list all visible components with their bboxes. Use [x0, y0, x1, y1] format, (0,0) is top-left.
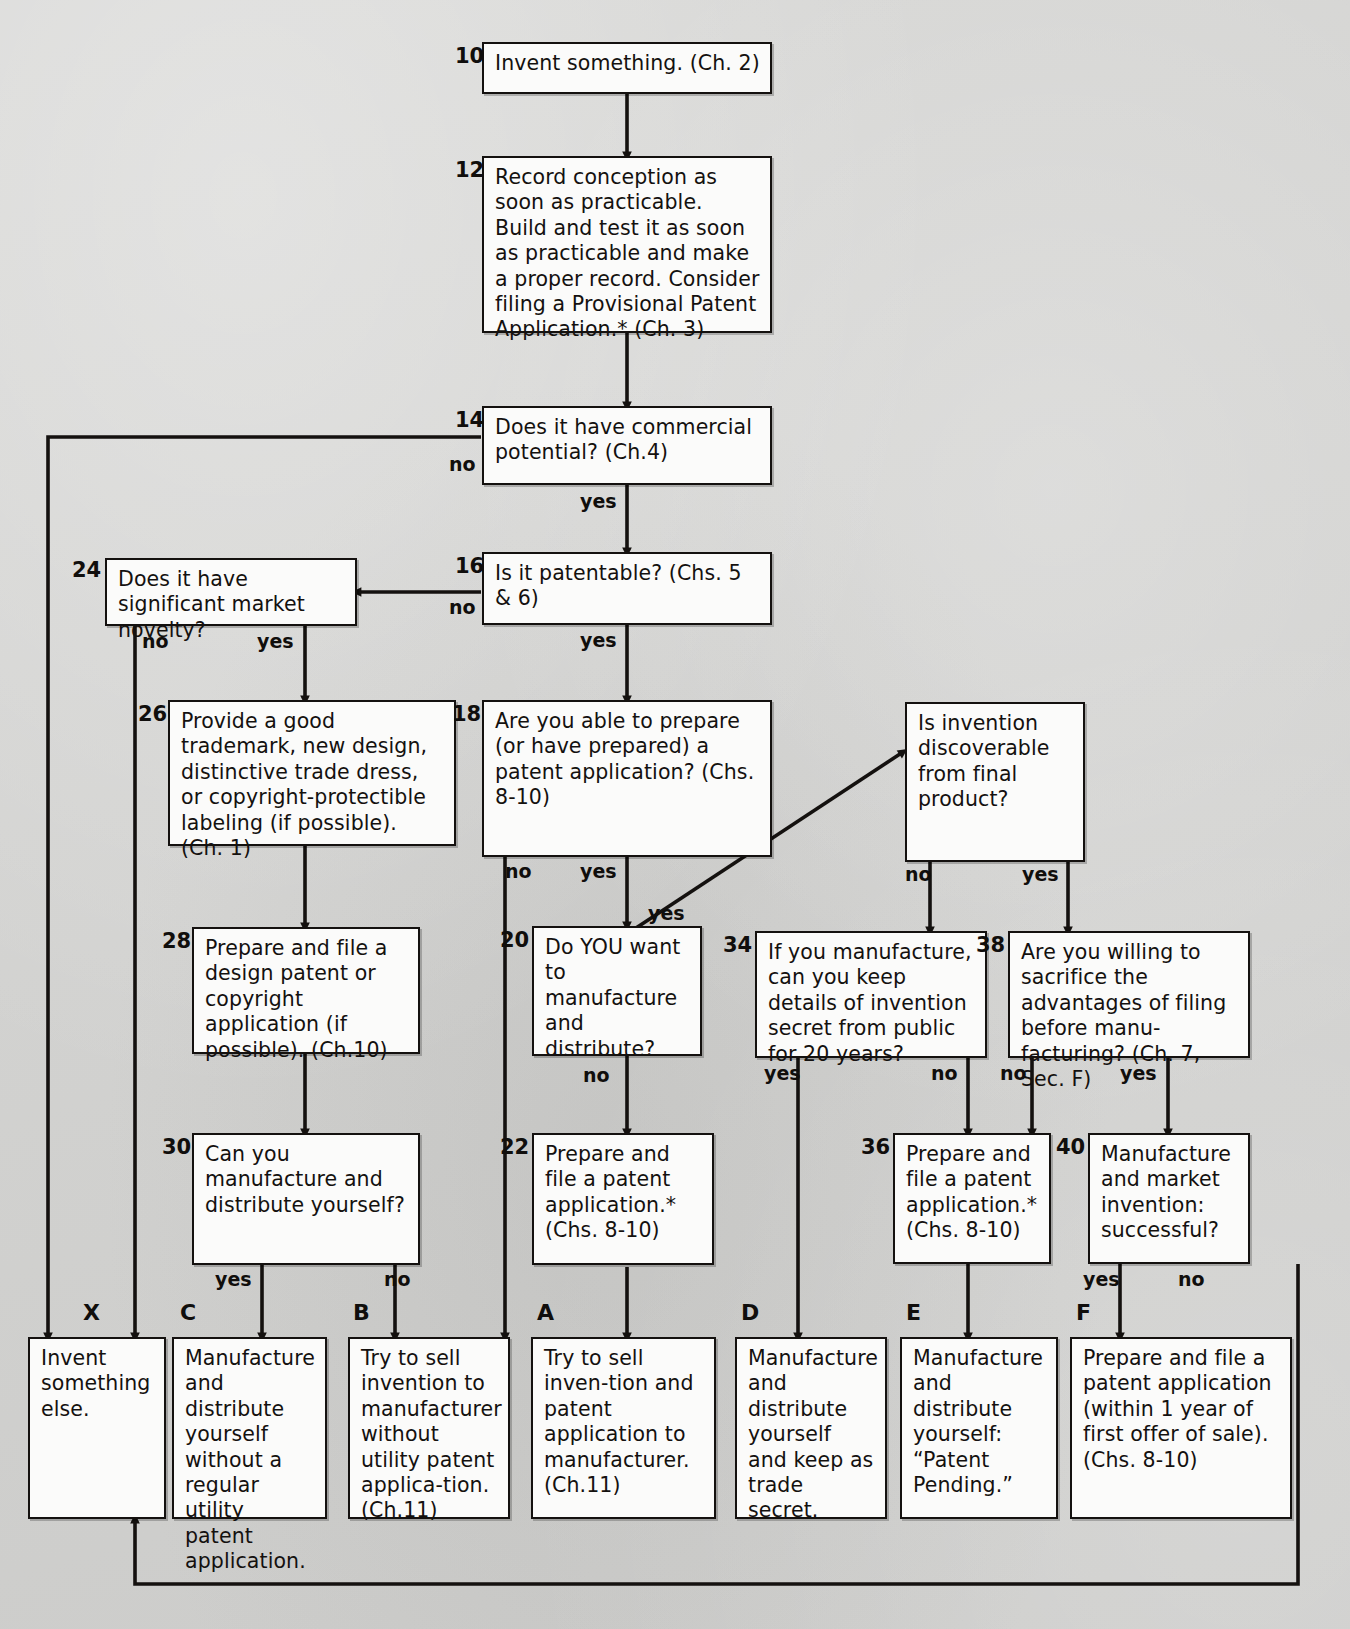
terminal-D: Manufacture and distribute yourself and …: [735, 1337, 887, 1519]
edge-label-30-yes: yes: [215, 1268, 252, 1290]
edge-label-38-yes: yes: [1120, 1062, 1157, 1084]
terminal-X-key: X: [83, 1300, 100, 1325]
edge-label-18-yes-secret: yes: [648, 902, 685, 924]
terminal-A: Try to sell inven-tion and patent applic…: [531, 1337, 716, 1519]
edge-label-16-no: no: [449, 596, 476, 618]
edge-label-discoverable-yes: yes: [1022, 863, 1059, 885]
node-24: Does it have significant market novelty?: [105, 558, 357, 626]
edge-label-34-yes: yes: [764, 1062, 801, 1084]
node-20-number: 20: [500, 928, 529, 952]
node-14-text: Does it have commercial potential? (Ch.4…: [495, 415, 761, 466]
node-34-number: 34: [723, 933, 752, 957]
edge-label-18-yes: yes: [580, 860, 617, 882]
terminal-C: Manufacture and distribute yourself with…: [172, 1337, 327, 1519]
node-30-text: Can you manufacture and distribute yours…: [205, 1142, 409, 1218]
node-36: Prepare and file a patent application.* …: [893, 1133, 1051, 1264]
node-40: Manufacture and market invention: succes…: [1088, 1133, 1250, 1264]
terminal-X: Invent something else.: [28, 1337, 166, 1519]
edge-label-38-no: no: [1000, 1062, 1027, 1084]
terminal-B-text: Try to sell invention to manufacturer wi…: [361, 1346, 499, 1524]
node-10-number: 10: [455, 44, 484, 68]
edge-label-40-no: no: [1178, 1268, 1205, 1290]
node-34-text: If you manufacture, can you keep details…: [768, 940, 976, 1067]
node-30: Can you manufacture and distribute yours…: [192, 1133, 420, 1265]
terminal-C-key: C: [180, 1300, 196, 1325]
node-22-number: 22: [500, 1135, 529, 1159]
node-20-text: Do YOU want to manufacture and distribut…: [545, 935, 691, 1062]
edge-label-discoverable-no: no: [905, 863, 932, 885]
edge-label-16-yes: yes: [580, 629, 617, 651]
node-10: Invent something. (Ch. 2): [482, 42, 772, 94]
node-26: Provide a good trademark, new design, di…: [168, 700, 456, 846]
edge-label-30-no: no: [384, 1268, 411, 1290]
node-38: Are you willing to sacrifice the advanta…: [1008, 931, 1250, 1058]
node-38-number: 38: [976, 933, 1005, 957]
edge-label-24-yes: yes: [257, 630, 294, 652]
node-18-number: 18: [452, 702, 481, 726]
node-12-text: Record conception as soon as practicable…: [495, 165, 761, 343]
node-12: Record conception as soon as practicable…: [482, 156, 772, 333]
node-discoverable: Is invention discoverable from final pro…: [905, 702, 1085, 862]
edge-label-18-no: no: [505, 860, 532, 882]
node-26-text: Provide a good trademark, new design, di…: [181, 709, 445, 861]
edge-label-14-yes: yes: [580, 490, 617, 512]
terminal-A-key: A: [537, 1300, 554, 1325]
terminal-E-key: E: [906, 1300, 921, 1325]
terminal-E: Manufacture and distribute yourself: “Pa…: [900, 1337, 1058, 1519]
node-16: Is it patentable? (Chs. 5 & 6): [482, 552, 772, 625]
node-20: Do YOU want to manufacture and distribut…: [532, 926, 702, 1056]
node-14-number: 14: [455, 408, 484, 432]
node-30-number: 30: [162, 1135, 191, 1159]
node-36-number: 36: [861, 1135, 890, 1159]
node-28-text: Prepare and file a design patent or copy…: [205, 936, 409, 1063]
terminal-D-key: D: [741, 1300, 759, 1325]
terminal-X-text: Invent something else.: [41, 1346, 155, 1422]
node-16-number: 16: [455, 554, 484, 578]
terminal-F-key: F: [1076, 1300, 1091, 1325]
edge-label-40-yes: yes: [1083, 1268, 1120, 1290]
terminal-B-key: B: [353, 1300, 370, 1325]
terminal-A-text: Try to sell inven-tion and patent applic…: [544, 1346, 705, 1498]
node-22-text: Prepare and file a patent application.* …: [545, 1142, 703, 1244]
node-16-text: Is it patentable? (Chs. 5 & 6): [495, 561, 761, 612]
edge-label-14-no: no: [449, 453, 476, 475]
node-28: Prepare and file a design patent or copy…: [192, 927, 420, 1054]
node-40-text: Manufacture and market invention: succes…: [1101, 1142, 1239, 1244]
node-18: Are you able to prepare (or have prepare…: [482, 700, 772, 857]
terminal-D-text: Manufacture and distribute yourself and …: [748, 1346, 876, 1524]
terminal-C-text: Manufacture and distribute yourself with…: [185, 1346, 316, 1575]
terminal-B: Try to sell invention to manufacturer wi…: [348, 1337, 510, 1519]
node-34: If you manufacture, can you keep details…: [755, 931, 987, 1058]
node-10-text: Invent something. (Ch. 2): [495, 51, 761, 76]
node-12-number: 12: [455, 158, 484, 182]
edge-label-34-no: no: [931, 1062, 958, 1084]
edge-label-24-no: no: [142, 630, 169, 652]
node-40-number: 40: [1056, 1135, 1085, 1159]
node-22: Prepare and file a patent application.* …: [532, 1133, 714, 1265]
node-18-text: Are you able to prepare (or have prepare…: [495, 709, 761, 811]
node-14: Does it have commercial potential? (Ch.4…: [482, 406, 772, 485]
node-24-number: 24: [72, 558, 101, 582]
node-28-number: 28: [162, 929, 191, 953]
terminal-F: Prepare and file a patent application (w…: [1070, 1337, 1292, 1519]
node-36-text: Prepare and file a patent application.* …: [906, 1142, 1040, 1244]
terminal-E-text: Manufacture and distribute yourself: “Pa…: [913, 1346, 1047, 1498]
node-26-number: 26: [138, 702, 167, 726]
node-discoverable-text: Is invention discoverable from final pro…: [918, 711, 1074, 813]
terminal-F-text: Prepare and file a patent application (w…: [1083, 1346, 1281, 1473]
edge-label-20-no: no: [583, 1064, 610, 1086]
